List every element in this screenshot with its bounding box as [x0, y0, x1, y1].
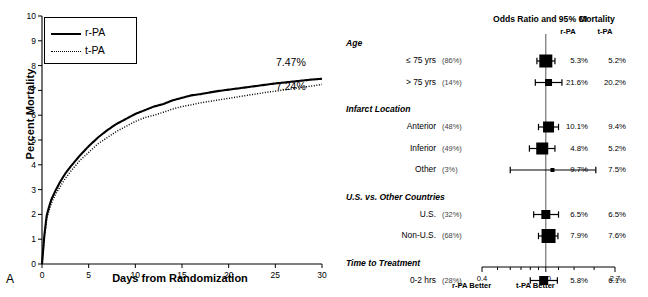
- legend-swatch-solid-line-icon: [51, 33, 81, 35]
- panel-a-letter: A: [6, 272, 14, 286]
- panel-b-forest-plot: Odds Ratio and 95% CI Mortality r-PA t-P…: [330, 0, 648, 297]
- figure-root: 012345678910051015202530 Percent Mortali…: [0, 0, 648, 297]
- forest-axis-tick: 2.7: [610, 274, 621, 283]
- legend-label-r-pa: r-PA: [85, 26, 105, 38]
- forest-point-estimate-marker: [543, 122, 554, 133]
- panel-a-x-tick: 30: [317, 270, 327, 280]
- legend-swatch-dotted-line-icon: [51, 51, 81, 52]
- panel-a-y-axis-title: Percent Mortality: [24, 54, 36, 174]
- panel-a-survival-chart: 012345678910051015202530 Percent Mortali…: [0, 0, 330, 297]
- panel-a-x-axis-title: Days from Randomization: [55, 272, 305, 284]
- panel-a-curve-t-pa: [42, 84, 322, 264]
- forest-axis-footnote-right: t-PA Better: [516, 281, 555, 290]
- panel-a-legend: r-PA t-PA: [44, 17, 137, 64]
- forest-point-estimate-marker: [545, 79, 552, 86]
- forest-point-estimate-marker: [542, 229, 556, 243]
- forest-point-estimate-marker: [541, 210, 550, 219]
- forest-point-estimate-marker: [536, 143, 548, 155]
- panel-a-y-tick: 0: [31, 259, 36, 269]
- panel-a-y-tick: 10: [27, 11, 37, 21]
- panel-a-y-tick: 2: [31, 209, 36, 219]
- forest-point-estimate-marker: [550, 168, 554, 172]
- curve-end-label-r-pa: 7.47%: [276, 56, 306, 68]
- panel-a-curve-r-pa: [42, 79, 322, 264]
- panel-a-y-tick: 9: [31, 36, 36, 46]
- panel-a-y-tick: 3: [31, 185, 36, 195]
- forest-axis-footnote-left: r-PA Better: [452, 281, 491, 290]
- panel-a-y-tick: 1: [31, 234, 36, 244]
- curve-end-label-t-pa: 7.24%: [276, 80, 306, 92]
- forest-point-estimate-marker: [539, 55, 552, 68]
- legend-label-t-pa: t-PA: [85, 44, 105, 56]
- panel-a-x-tick: 0: [40, 270, 45, 280]
- forest-plot-graphic: 0.41.02.7: [330, 0, 648, 297]
